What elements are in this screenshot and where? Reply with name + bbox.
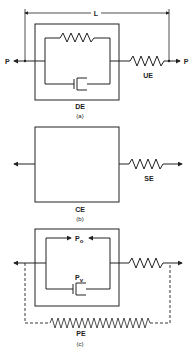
- panel-c: Po Pv PE (c): [14, 229, 182, 347]
- panel-b: SE CE (b): [14, 127, 182, 222]
- spring-icon: [119, 56, 169, 66]
- caption-a: (a): [76, 113, 83, 119]
- parallel-element-pe: PE: [25, 263, 170, 337]
- contractile-element-box: [35, 127, 119, 202]
- po-label: Po: [75, 235, 84, 244]
- panel-a: L P: [5, 8, 189, 119]
- pe-label: PE: [76, 330, 86, 337]
- spring-icon: [45, 33, 110, 42]
- pv-label: Pv: [75, 274, 84, 283]
- spring-icon: [50, 318, 150, 328]
- length-label: L: [94, 10, 99, 17]
- inner-parallel-branches: Po Pv: [35, 235, 119, 295]
- de-label: DE: [75, 103, 85, 110]
- left-force-label: P: [5, 58, 10, 65]
- series-spring-ue: P UE: [119, 56, 189, 79]
- spring-icon: [119, 258, 172, 268]
- ue-label: UE: [143, 72, 153, 79]
- caption-c: (c): [77, 341, 84, 347]
- length-dimension: L: [25, 8, 169, 61]
- series-spring: [119, 258, 182, 268]
- ce-label: CE: [75, 206, 85, 213]
- muscle-model-diagram: L P: [0, 0, 192, 349]
- spring-icon: [119, 159, 172, 169]
- left-force-arrow: P: [5, 58, 35, 65]
- right-force-label: P: [184, 58, 189, 65]
- series-spring-se: SE: [119, 159, 182, 182]
- se-label: SE: [144, 175, 154, 182]
- caption-b: (b): [76, 216, 83, 222]
- parallel-spring-dashpot: [35, 33, 119, 90]
- dashpot-icon: [45, 78, 110, 90]
- dashpot-icon: [46, 283, 110, 295]
